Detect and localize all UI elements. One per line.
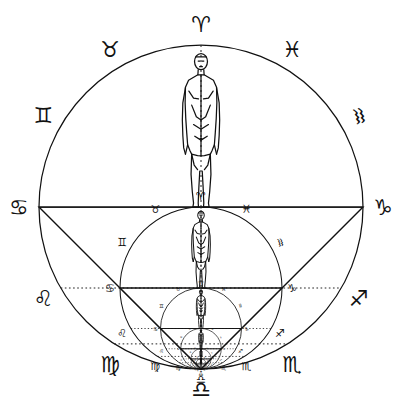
figure-stroke	[204, 313, 205, 315]
zodiac-glyph-leo: ♌	[180, 358, 183, 362]
zodiac-glyph-aquarius: ♒	[237, 303, 244, 309]
figure-stroke	[199, 334, 200, 335]
figure-stroke	[208, 257, 209, 262]
zodiac-glyph-leo: ♌	[117, 327, 127, 340]
zodiac-glyph-aquarius: ♒	[344, 103, 373, 128]
zodiac-glyph-cancer: ♋	[105, 282, 115, 295]
human-figure	[200, 359, 201, 364]
zodiac-glyph-cancer: ♋	[9, 195, 29, 220]
zodiac-glyph-gemini: ♊	[159, 303, 164, 309]
zodiac-glyph-gemini: ♊	[189, 351, 191, 354]
zodiac-glyph-aries: ♈	[191, 12, 211, 37]
figure-stroke	[204, 154, 210, 170]
zodiac-glyph-aries: ♈	[199, 280, 204, 286]
zodiac-glyph-aries: ♈	[200, 345, 202, 348]
zodiac-glyph-pisces: ♓	[204, 356, 206, 359]
zodiac-glyph-pisces: ♓	[242, 203, 252, 216]
zodiac-glyph-aquarius: ♒	[272, 236, 287, 249]
zodiac-glyph-gemini: ♊	[194, 359, 196, 362]
zodiac-glyph-virgo: ♍	[151, 360, 161, 373]
figure-stroke	[202, 230, 207, 234]
zodiac-glyph-capricorn: ♑	[244, 326, 249, 332]
zodiac-glyph-aquarius: ♒	[210, 351, 213, 354]
zodiac-glyph-capricorn: ♑	[287, 282, 297, 295]
figure-stroke	[189, 91, 199, 99]
zodiac-glyph-scorpio: ♏	[221, 365, 226, 371]
diagram-canvas: ♈♉♊♋♌♍♎♏♐♑♒♓♈♉♊♋♌♍♎♏♐♑♒♓♈♉♊♋♌♍♎♏♐♑♒♓♈♉♊♋…	[0, 0, 402, 418]
zodiac-glyph-scorpio: ♏	[242, 360, 252, 373]
figure-stroke	[214, 145, 216, 154]
zodiac-glyph-sagittarius: ♐	[349, 286, 369, 311]
zodiac-glyph-scorpio: ♏	[204, 369, 206, 372]
zodiac-glyph-sagittarius: ♐	[275, 327, 285, 340]
zodiac-glyph-capricorn: ♑	[212, 357, 214, 360]
zodiac-glyph-taurus: ♉	[194, 347, 196, 350]
zodiac-glyph-aries: ♈	[200, 324, 203, 328]
zodiac-glyph-aries: ♈	[200, 355, 202, 358]
figure-stroke	[201, 334, 202, 335]
zodiac-glyph-taurus: ♉	[176, 286, 181, 292]
figure-stroke	[192, 154, 198, 170]
zodiac-glyph-gemini: ♊	[33, 103, 53, 128]
figure-stroke	[203, 91, 213, 99]
zodiac-glyph-scorpio: ♏	[282, 352, 302, 377]
figure-stroke	[202, 300, 204, 302]
zodiac-glyph-sagittarius: ♐	[219, 358, 222, 362]
zodiac-glyph-sagittarius: ♐	[238, 348, 243, 354]
zodiac-glyph-taurus: ♉	[188, 327, 191, 331]
zodiac-glyph-virgo: ♍	[176, 365, 181, 371]
zodiac-glyph-gemini: ♊	[180, 335, 183, 339]
zodiac-glyph-gemini: ♊	[117, 236, 127, 249]
zodiac-glyph-virgo: ♍	[100, 352, 120, 377]
zodiac-glyph-pisces: ♓	[282, 37, 302, 62]
diagram-root: ♈♉♊♋♌♍♎♏♐♑♒♓♈♉♊♋♌♍♎♏♐♑♒♓♈♉♊♋♌♍♎♏♐♑♒♓♈♉♊♋…	[9, 12, 393, 401]
zodiac-glyph-libra: ♎	[200, 370, 202, 373]
human-figure	[182, 54, 219, 207]
zodiac-diagram: ♈♉♊♋♌♍♎♏♐♑♒♓♈♉♊♋♌♍♎♏♐♑♒♓♈♉♊♋♌♍♎♏♐♑♒♓♈♉♊♋…	[0, 0, 402, 418]
figure-stroke	[185, 145, 187, 154]
zodiac-glyph-capricorn: ♑	[207, 362, 209, 365]
zodiac-glyph-pisces: ♓	[206, 347, 208, 350]
zodiac-glyph-pisces: ♓	[211, 327, 214, 331]
figure-stroke	[193, 257, 194, 262]
zodiac-glyph-taurus: ♉	[100, 37, 120, 62]
zodiac-glyph-pisces: ♓	[221, 286, 226, 292]
zodiac-glyph-capricorn: ♑	[373, 195, 393, 220]
zodiac-glyph-virgo: ♍	[196, 369, 198, 372]
zodiac-glyph-cancer: ♋	[188, 357, 190, 360]
zodiac-glyph-leo: ♌	[189, 363, 191, 366]
figure-stroke	[198, 300, 200, 302]
zodiac-glyph-sagittarius: ♐	[206, 366, 208, 369]
zodiac-glyph-aquarius: ♒	[218, 336, 223, 340]
zodiac-glyph-aries: ♈	[196, 190, 206, 203]
figure-stroke	[195, 230, 200, 234]
zodiac-glyph-cancer: ♋	[153, 326, 158, 332]
figure-stroke	[197, 313, 198, 315]
zodiac-glyph-taurus: ♉	[151, 203, 161, 216]
zodiac-glyph-taurus: ♉	[196, 356, 198, 359]
zodiac-glyph-leo: ♌	[33, 286, 53, 311]
zodiac-glyph-leo: ♌	[159, 348, 164, 354]
zodiac-glyph-sagittarius: ♐	[211, 363, 213, 366]
